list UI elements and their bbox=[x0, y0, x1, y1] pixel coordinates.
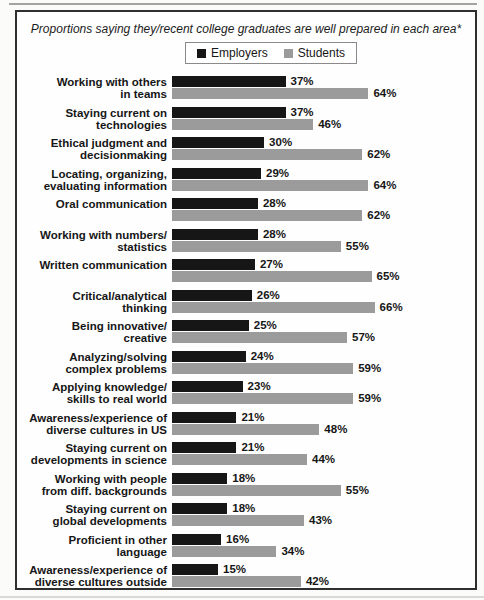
value-label: 37% bbox=[291, 76, 314, 87]
value-label: 64% bbox=[373, 88, 396, 99]
value-label: 42% bbox=[306, 576, 329, 587]
category-label: Working with others in teams bbox=[17, 76, 172, 100]
value-label: 28% bbox=[263, 229, 286, 240]
students-bar bbox=[172, 210, 362, 221]
employers-bar bbox=[172, 76, 286, 87]
bar-pair: 25%57% bbox=[172, 320, 375, 344]
value-label: 21% bbox=[241, 442, 264, 453]
students-bar-line: 62% bbox=[172, 149, 390, 160]
employers-bar-line: 29% bbox=[172, 168, 397, 179]
employers-bar bbox=[172, 412, 236, 423]
chart-row: Staying current on developments in scien… bbox=[17, 442, 475, 466]
legend-item-students: Students bbox=[284, 47, 345, 59]
category-label: Locating, organizing, evaluating informa… bbox=[17, 168, 172, 192]
students-bar-line: 59% bbox=[172, 393, 381, 404]
value-label: 59% bbox=[358, 363, 381, 374]
students-bar bbox=[172, 241, 341, 252]
students-bar bbox=[172, 271, 372, 282]
students-bar bbox=[172, 485, 341, 496]
bar-pair: 18%55% bbox=[172, 473, 369, 497]
legend-label: Students bbox=[298, 47, 345, 59]
chart-frame: Proportions saying they/recent college g… bbox=[15, 10, 477, 590]
value-label: 55% bbox=[346, 485, 369, 496]
students-bar bbox=[172, 180, 368, 191]
students-bar-line: 64% bbox=[172, 88, 397, 99]
value-label: 30% bbox=[269, 137, 292, 148]
category-label: Analyzing/solving complex problems bbox=[17, 351, 172, 375]
employers-bar bbox=[172, 442, 236, 453]
category-label: Proficient in other language bbox=[17, 534, 172, 558]
legend: EmployersStudents bbox=[185, 42, 357, 64]
employers-bar-line: 30% bbox=[172, 137, 390, 148]
category-label: Written communication bbox=[17, 259, 172, 271]
value-label: 15% bbox=[223, 564, 246, 575]
bar-pair: 27%65% bbox=[172, 259, 400, 283]
chart-row: Applying knowledge/ skills to real world… bbox=[17, 381, 475, 405]
category-label: Working with numbers/ statistics bbox=[17, 229, 172, 253]
legend-swatch-icon bbox=[197, 49, 206, 58]
students-bar-line: 55% bbox=[172, 241, 369, 252]
bar-pair: 21%48% bbox=[172, 412, 347, 436]
employers-bar bbox=[172, 503, 227, 514]
employers-bar-line: 37% bbox=[172, 76, 397, 87]
value-label: 34% bbox=[281, 546, 304, 557]
students-bar-line: 62% bbox=[172, 210, 390, 221]
chart-row: Being innovative/ creative25%57% bbox=[17, 320, 475, 344]
students-bar bbox=[172, 88, 368, 99]
students-bar-line: 34% bbox=[172, 546, 304, 557]
employers-bar bbox=[172, 320, 249, 331]
employers-bar bbox=[172, 564, 218, 575]
chart-row: Staying current on technologies37%46% bbox=[17, 107, 475, 131]
students-bar-line: 48% bbox=[172, 424, 347, 435]
employers-bar bbox=[172, 351, 246, 362]
category-label: Oral communication bbox=[17, 198, 172, 210]
value-label: 16% bbox=[226, 534, 249, 545]
category-label: Staying current on technologies bbox=[17, 107, 172, 131]
students-bar bbox=[172, 576, 301, 587]
value-label: 18% bbox=[232, 503, 255, 514]
students-bar-line: 64% bbox=[172, 180, 397, 191]
bar-pair: 16%34% bbox=[172, 534, 304, 558]
employers-bar-line: 37% bbox=[172, 107, 341, 118]
employers-bar-line: 28% bbox=[172, 198, 390, 209]
value-label: 37% bbox=[291, 107, 314, 118]
employers-bar bbox=[172, 198, 258, 209]
bar-pair: 26%66% bbox=[172, 290, 403, 314]
employers-bar-line: 16% bbox=[172, 534, 304, 545]
chart-row: Working with numbers/ statistics28%55% bbox=[17, 229, 475, 253]
value-label: 55% bbox=[346, 241, 369, 252]
employers-bar bbox=[172, 290, 252, 301]
chart-row: Ethical judgment and decisionmaking30%62… bbox=[17, 137, 475, 161]
value-label: 29% bbox=[266, 168, 289, 179]
value-label: 46% bbox=[318, 119, 341, 130]
students-bar-line: 65% bbox=[172, 271, 400, 282]
category-label: Awareness/experience of diverse cultures… bbox=[17, 564, 172, 590]
value-label: 62% bbox=[367, 210, 390, 221]
page-bottom-rule bbox=[0, 596, 484, 598]
category-label: Working with people from diff. backgroun… bbox=[17, 473, 172, 497]
chart-row: Locating, organizing, evaluating informa… bbox=[17, 168, 475, 192]
bar-pair: 21%44% bbox=[172, 442, 335, 466]
employers-bar-line: 15% bbox=[172, 564, 329, 575]
employers-bar-line: 27% bbox=[172, 259, 400, 270]
value-label: 48% bbox=[324, 424, 347, 435]
value-label: 18% bbox=[232, 473, 255, 484]
chart-row: Proficient in other language16%34% bbox=[17, 534, 475, 558]
students-bar-line: 59% bbox=[172, 363, 381, 374]
employers-bar bbox=[172, 229, 258, 240]
value-label: 65% bbox=[377, 271, 400, 282]
chart-title: Proportions saying they/recent college g… bbox=[17, 22, 475, 36]
chart-row: Critical/analytical thinking26%66% bbox=[17, 290, 475, 314]
students-bar bbox=[172, 546, 276, 557]
employers-bar-line: 21% bbox=[172, 412, 347, 423]
students-bar bbox=[172, 149, 362, 160]
students-bar-line: 57% bbox=[172, 332, 375, 343]
students-bar bbox=[172, 393, 353, 404]
bar-pair: 24%59% bbox=[172, 351, 381, 375]
students-bar bbox=[172, 302, 375, 313]
employers-bar bbox=[172, 137, 264, 148]
students-bar-line: 42% bbox=[172, 576, 329, 587]
bar-pair: 37%64% bbox=[172, 76, 397, 100]
chart-rows: Working with others in teams37%64%Stayin… bbox=[17, 76, 475, 590]
students-bar bbox=[172, 424, 319, 435]
